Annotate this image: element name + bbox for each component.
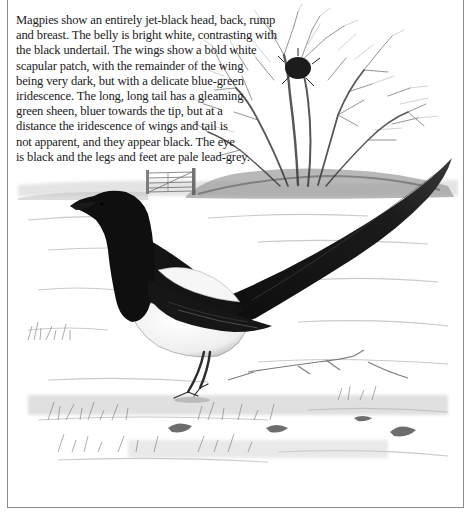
illustration-frame: Magpies show an entirely jet-black head,…	[7, 0, 464, 508]
eye	[100, 202, 103, 205]
caption-line: is black and the legs and feet are pale …	[16, 150, 248, 165]
head-breast	[70, 191, 154, 322]
caption-line: iridescence. The long, long tail has a g…	[16, 89, 248, 104]
field-shading	[28, 395, 448, 458]
earth-clumps	[168, 416, 416, 436]
feet-shadow	[174, 397, 210, 403]
caption-line: not apparent, and they appear black. The…	[16, 135, 248, 150]
caption-line: being very dark, but with a delicate blu…	[16, 74, 248, 89]
caption-line: green sheen, bluer towards the tip, but …	[16, 104, 248, 119]
description-caption: Magpies show an entirely jet-black head,…	[16, 13, 248, 165]
caption-line: distance the iridescence of wings and ta…	[16, 119, 248, 134]
caption-line: scapular patch, with the remainder of th…	[16, 59, 248, 74]
legs	[174, 352, 210, 398]
caption-line: and breast. The belly is bright white, c…	[16, 28, 248, 43]
caption-line: Magpies show an entirely jet-black head,…	[16, 13, 248, 28]
caption-line: the black undertail. The wings show a bo…	[16, 43, 248, 58]
twigs	[228, 350, 408, 380]
